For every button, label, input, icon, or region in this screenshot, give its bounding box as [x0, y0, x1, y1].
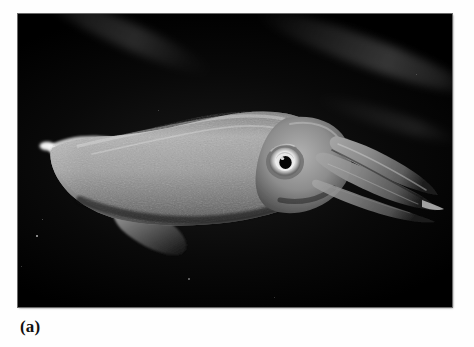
figure-caption-label: (a): [20, 318, 40, 335]
figure-a: [18, 14, 452, 307]
squid-eye: [266, 145, 304, 180]
page-canvas: (a): [0, 0, 474, 347]
squid-photograph: [18, 14, 452, 307]
squid-subject: [18, 14, 452, 307]
